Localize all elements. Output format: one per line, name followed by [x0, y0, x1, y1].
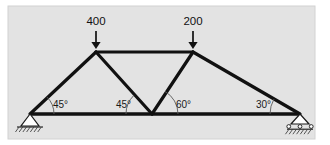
load-label-200: 200 [183, 15, 202, 27]
angle-label-left-support: 45° [53, 99, 68, 110]
roller-wheel [298, 125, 302, 129]
diagram-panel-background [8, 6, 315, 139]
load-label-400: 400 [86, 15, 105, 27]
roller-wheel [287, 125, 291, 129]
truss-diagram-canvas: 45° 45° 60° 30° 400 200 [0, 0, 330, 145]
angle-label-right-support: 30° [256, 99, 271, 110]
roller-wheel [309, 125, 313, 129]
truss-diagram-figure: 45° 45° 60° 30° 400 200 [0, 0, 330, 145]
angle-label-bottom-middle-left: 45° [116, 99, 131, 110]
angle-label-bottom-middle-right: 60° [176, 99, 191, 110]
